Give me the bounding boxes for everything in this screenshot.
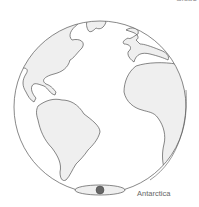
africa	[124, 63, 188, 170]
antarctica-label: Antarctica	[137, 189, 170, 198]
south-pole-dot	[96, 186, 104, 194]
greenland	[87, 18, 107, 32]
globe-diagram	[0, 0, 199, 207]
south-america	[37, 99, 101, 180]
iceland-scandinavia	[123, 28, 168, 62]
north-america	[14, 20, 83, 102]
